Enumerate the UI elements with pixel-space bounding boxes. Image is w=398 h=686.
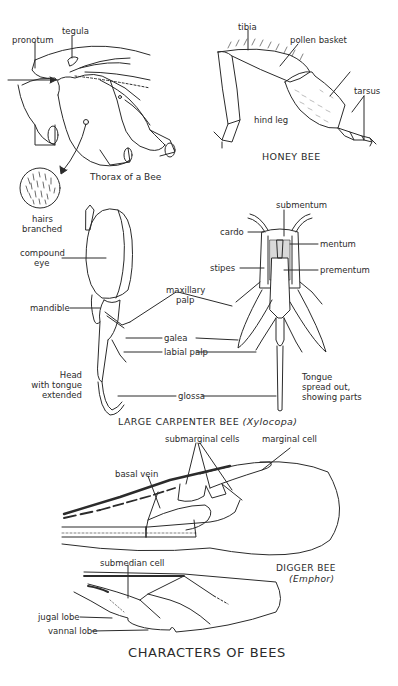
label-tegula: tegula [62, 26, 89, 36]
label-submedian-cell: submedian cell [100, 558, 164, 568]
caption-digger-bee: DIGGER BEE [276, 563, 336, 573]
label-marginal-cell: marginal cell [262, 434, 317, 444]
figure-title: CHARACTERS OF BEES [128, 645, 286, 660]
label-stipes: stipes [210, 263, 235, 273]
label-submarginal-cells: submarginal cells [165, 434, 240, 444]
label-hind-leg: hind leg [254, 115, 288, 125]
label-hairs: hairs [32, 214, 53, 224]
label-vannal-lobe: vannal lobe [48, 626, 97, 636]
label-pollen-basket: pollen basket [290, 35, 347, 45]
label-mandible: mandible [30, 303, 70, 313]
label-tibia: tibia [238, 22, 257, 32]
hindwing-drawing [74, 565, 281, 632]
label-compound: compound [20, 248, 62, 258]
basitarsus-hair-texture [295, 90, 333, 122]
label-pronotum: pronotum [12, 35, 54, 45]
label-glossa: glossa [178, 391, 205, 401]
label-tongue: Tongue [302, 372, 332, 382]
caption-carpenter-bee: LARGE CARPENTER BEE (Xylocopa) [118, 416, 297, 427]
label-head: Head [30, 370, 82, 380]
caption-thorax: Thorax of a Bee [90, 172, 161, 182]
caption-digger-genus: (Emphor) [289, 574, 334, 584]
bee-characters-illustration [0, 0, 398, 686]
label-galea: galea [164, 333, 187, 343]
label-tarsus: tarsus [354, 86, 380, 96]
label-spread-out: spread out, [302, 382, 350, 392]
caption-carpenter-genus: (Xylocopa) [243, 416, 298, 427]
label-cardo: cardo [220, 227, 244, 237]
forewing-drawing [62, 443, 340, 555]
label-basal-vein: basal vein [115, 469, 158, 479]
thorax-drawing [8, 36, 175, 208]
caption-honey-bee: HONEY BEE [262, 151, 321, 162]
label-maxillary: maxillary [166, 285, 205, 295]
label-showing-parts: showing parts [302, 392, 362, 402]
label-eye: eye [34, 258, 50, 268]
label-extended: extended [30, 390, 82, 400]
label-prementum: prementum [320, 265, 370, 275]
label-branched: branched [22, 224, 62, 234]
hairs-texture [26, 172, 55, 204]
label-with-tongue: with tongue [30, 380, 82, 390]
tongue-drawing [118, 210, 326, 411]
hind-leg-drawing [214, 30, 376, 148]
label-jugal-lobe: jugal lobe [38, 612, 80, 622]
label-mentum: mentum [320, 239, 356, 249]
caption-carpenter-prefix: LARGE CARPENTER BEE [118, 416, 239, 427]
label-palp: palp [176, 295, 194, 305]
label-submentum: submentum [276, 200, 327, 210]
label-labial-palp: labial palp [164, 347, 208, 357]
